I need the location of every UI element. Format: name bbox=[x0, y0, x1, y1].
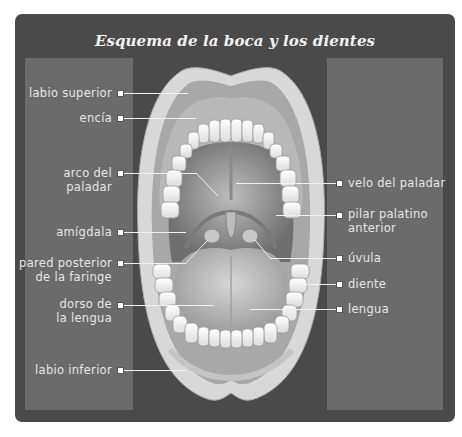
label-lengua: lengua bbox=[348, 302, 458, 316]
leader-line bbox=[124, 263, 185, 264]
leader-line bbox=[250, 309, 336, 310]
label-uvula: úvula bbox=[348, 251, 458, 265]
leader-line bbox=[270, 258, 336, 259]
leader-marker-icon bbox=[336, 281, 343, 288]
leader-marker-icon bbox=[336, 180, 343, 187]
label-pilar-palatino-anterior: pilar palatino anterior bbox=[348, 207, 458, 235]
leader-line bbox=[124, 370, 186, 371]
leader-marker-icon bbox=[117, 229, 124, 236]
leader-line bbox=[124, 232, 186, 233]
label-velo-del-paladar: velo del paladar bbox=[348, 176, 458, 190]
label-labio-inferior: labio inferior bbox=[20, 363, 112, 377]
leader-line bbox=[236, 183, 336, 184]
leader-marker-icon bbox=[336, 212, 343, 219]
leader-marker-icon bbox=[117, 367, 124, 374]
leader-marker-icon bbox=[117, 260, 124, 267]
leader-line bbox=[276, 215, 336, 216]
label-pared-posterior-faringe: pared posterior de la faringe bbox=[6, 256, 112, 284]
leader-marker-icon bbox=[336, 306, 343, 313]
leader-marker-icon bbox=[117, 302, 124, 309]
leader-line bbox=[300, 284, 336, 285]
leader-line bbox=[124, 305, 214, 306]
label-diente: diente bbox=[348, 277, 458, 291]
label-dorso-lengua: dorso de la lengua bbox=[20, 297, 112, 325]
label-amigdala: amígdala bbox=[20, 225, 112, 239]
leader-marker-icon bbox=[336, 255, 343, 262]
